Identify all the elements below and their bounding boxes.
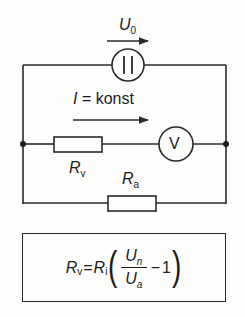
fraction-bar — [121, 267, 147, 268]
formula-rv-symbol: R — [66, 259, 78, 277]
label-rv: Rv — [69, 160, 86, 176]
voltmeter-label: V — [169, 136, 180, 152]
formula-close-paren: ) — [172, 246, 181, 286]
formula-one: 1 — [162, 259, 171, 277]
voltmeter-letter: V — [169, 135, 180, 152]
formula-minus: − — [151, 259, 160, 277]
formula-lhs: Rv — [66, 259, 83, 277]
formula-open-paren: ( — [108, 246, 117, 286]
formula-factor: Ri — [94, 259, 108, 277]
rv-symbol: R — [69, 159, 81, 176]
label-ra: Ra — [122, 171, 139, 187]
formula: Rv = Ri ( Un Ua − 1 ) — [23, 234, 225, 301]
formula-rv-subscript: v — [77, 266, 82, 277]
middle-branch — [23, 137, 226, 152]
bottom-branch — [23, 196, 226, 211]
numerator-symbol: U — [125, 247, 137, 264]
formula-equals: = — [83, 259, 92, 277]
rv-subscript: v — [81, 168, 86, 179]
denominator-subscript: a — [137, 279, 143, 290]
voltage-source-icon — [112, 49, 144, 81]
formula-fraction: Un Ua — [121, 247, 147, 288]
left-junction-node — [20, 141, 26, 147]
numerator-subscript: n — [137, 256, 143, 267]
current-text: = konst — [77, 90, 133, 107]
formula-denominator: Ua — [124, 270, 143, 288]
ra-symbol: R — [122, 170, 134, 187]
load-resistor-ra — [108, 196, 156, 211]
u0-symbol: U — [119, 16, 131, 33]
u0-subscript: 0 — [131, 25, 137, 36]
ra-subscript: a — [134, 179, 140, 190]
series-resistor-rv — [54, 137, 102, 152]
formula-ri-symbol: R — [94, 259, 106, 277]
formula-numerator: Un — [124, 247, 143, 265]
denominator-symbol: U — [125, 270, 137, 287]
right-junction-node — [223, 141, 229, 147]
label-u0: U0 — [119, 17, 136, 33]
label-current: I = konst — [73, 91, 134, 107]
formula-box: Rv = Ri ( Un Ua − 1 ) — [22, 233, 226, 302]
